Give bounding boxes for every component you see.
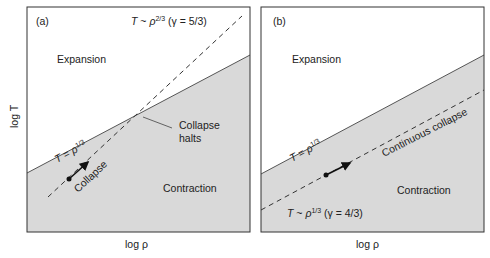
panel-b-dashed-line-label: T ~ ρ1/3 (γ = 4/3) bbox=[287, 207, 363, 219]
panel-b-start-dot bbox=[324, 173, 329, 178]
panel-a: (a) Expansion Contraction T ~ ρ2/3 (γ = … bbox=[8, 7, 250, 250]
panel-a-annotation-line1: Collapse bbox=[179, 119, 220, 131]
panel-b-contraction-label: Contraction bbox=[397, 184, 451, 196]
panel-a-annotation-line2: halts bbox=[179, 132, 201, 144]
panel-a-xlabel: log ρ bbox=[125, 238, 148, 250]
panel-a-start-dot bbox=[67, 177, 72, 182]
panel-a-dashed-line-label: T ~ ρ2/3 (γ = 5/3) bbox=[131, 15, 207, 27]
panel-b: (b) Expansion Contraction T = ρ1/3 T ~ ρ… bbox=[261, 7, 484, 250]
panel-a-ylabel: log T bbox=[8, 104, 20, 128]
panel-b-label: (b) bbox=[273, 15, 286, 27]
panel-a-label: (a) bbox=[36, 15, 49, 27]
figure: (a) Expansion Contraction T ~ ρ2/3 (γ = … bbox=[0, 0, 490, 258]
panel-b-expansion-label: Expansion bbox=[292, 53, 341, 65]
panel-a-expansion-label: Expansion bbox=[57, 53, 106, 65]
panel-a-contraction-label: Contraction bbox=[163, 182, 217, 194]
panel-b-xlabel: log ρ bbox=[356, 238, 379, 250]
